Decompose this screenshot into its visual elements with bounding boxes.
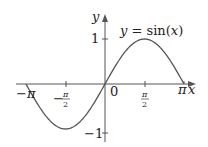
- tick-label-half-pi: π 2: [141, 90, 149, 109]
- tick-label-pi: π: [177, 82, 187, 97]
- svg-text:π: π: [141, 90, 148, 99]
- function-label: y = sin(x): [119, 23, 183, 38]
- svg-text:π: π: [62, 90, 69, 99]
- sine-chart: y x 0 1 −1 π −π π 2 − π 2 y = sin(x): [0, 0, 208, 147]
- x-axis-label: x: [188, 82, 196, 97]
- tick-label-neg-pi: −π: [16, 86, 36, 101]
- y-axis-arrow-icon: [102, 14, 108, 22]
- tick-label-neg-one: −1: [84, 126, 103, 141]
- svg-text:2: 2: [63, 100, 68, 109]
- y-axis-label: y: [91, 9, 100, 24]
- tick-label-neg-half-pi: − π 2: [53, 90, 70, 109]
- svg-text:2: 2: [142, 100, 147, 109]
- tick-label-one: 1: [91, 31, 99, 46]
- tick-label-zero: 0: [110, 84, 118, 99]
